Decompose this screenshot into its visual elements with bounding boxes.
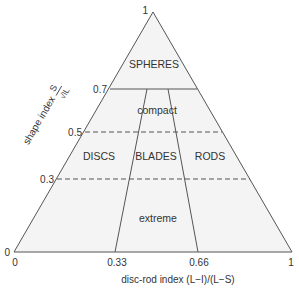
region-spheres: SPHERES [129, 58, 179, 70]
x-tick-0-66: 0.66 [189, 257, 209, 268]
apex-label: 1 [142, 5, 148, 16]
y-axis-fraction-num: S [48, 83, 60, 93]
region-discs: DISCS [83, 150, 115, 162]
region-compact: compact [137, 104, 177, 116]
x-tick-0: 0 [12, 257, 18, 268]
y-tick-0-5: 0.5 [68, 127, 82, 138]
y-axis-label: shape index [21, 94, 57, 146]
y-tick-0-3: 0.3 [40, 174, 54, 185]
x-tick-1: 1 [288, 257, 294, 268]
y-axis-label-group: shape index S √IL [18, 80, 72, 151]
region-blades: BLADES [135, 150, 176, 162]
x-axis-label: disc-rod index (L−I)/(L−S) [121, 274, 234, 285]
form-diagram: 1 0.7 0.5 0.3 0 0 0.33 0.66 1 disc-rod i… [0, 0, 299, 290]
region-rods: RODS [195, 150, 225, 162]
y-tick-0-7: 0.7 [93, 84, 107, 95]
region-extreme: extreme [139, 212, 177, 224]
y-tick-0: 0 [4, 247, 10, 258]
x-tick-0-33: 0.33 [107, 257, 127, 268]
